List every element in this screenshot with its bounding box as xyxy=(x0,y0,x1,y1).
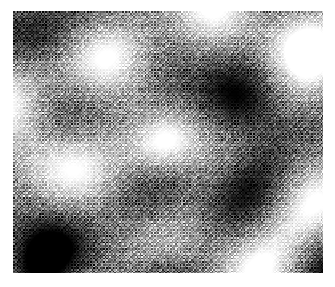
figure-canvas xyxy=(0,0,335,287)
speckle-heatmap-image xyxy=(13,11,323,273)
speckle-plot-area xyxy=(13,11,323,273)
